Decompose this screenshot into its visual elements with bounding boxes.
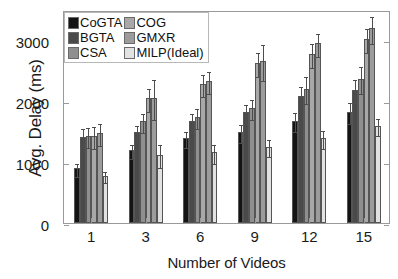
error-bar-line: [252, 100, 253, 121]
error-bar-cap-top: [256, 53, 260, 54]
y-tick-mark: [64, 103, 69, 104]
error-bar-cap-top: [212, 145, 216, 146]
error-bar-cap-bottom: [244, 124, 248, 125]
error-bar-line: [100, 124, 101, 146]
y-tick-mark: [64, 164, 69, 165]
y-tick-label: 2000: [0, 95, 49, 112]
error-bar-cap-bottom: [359, 94, 363, 95]
error-bar-line: [372, 17, 373, 44]
x-tick-mark: [364, 218, 365, 223]
error-bar-cap-top: [304, 77, 308, 78]
error-bar-line: [105, 172, 106, 183]
error-bar-line: [186, 132, 187, 148]
error-bar-line: [318, 34, 319, 57]
error-bar-cap-top: [147, 89, 151, 90]
error-bar-line: [132, 145, 133, 160]
y-tick-mark-right: [384, 225, 389, 226]
error-bar-cap-top: [353, 80, 357, 81]
error-bar-cap-top: [152, 80, 156, 81]
legend-swatch-icon: [68, 47, 79, 59]
error-bar-cap-bottom: [190, 132, 194, 133]
error-bar-cap-bottom: [135, 143, 139, 144]
error-bar-cap-bottom: [130, 159, 134, 160]
error-bar-line: [143, 114, 144, 133]
error-bar-cap-bottom: [267, 157, 271, 158]
error-bar-cap-bottom: [321, 149, 325, 150]
error-bar-cap-top: [103, 172, 107, 173]
error-bar-cap-bottom: [256, 77, 260, 78]
x-tick-mark: [91, 218, 92, 223]
error-bar-line: [312, 44, 313, 68]
error-bar-line: [323, 131, 324, 149]
error-bar-cap-top: [195, 109, 199, 110]
chart-legend: CoGTACOGBGTAGMXRCSAMILP(Ideal): [64, 12, 209, 63]
error-bar-cap-bottom: [92, 149, 96, 150]
error-bar-line: [367, 29, 368, 53]
legend-swatch-icon: [124, 47, 135, 59]
error-bar-cap-bottom: [304, 104, 308, 105]
legend-entry: COG: [124, 15, 203, 30]
error-bar-cap-bottom: [81, 148, 85, 149]
error-bar-cap-top: [75, 164, 79, 165]
error-bar-line: [263, 45, 264, 80]
y-tick-label: 1000: [0, 156, 49, 173]
error-bar-line: [88, 128, 89, 149]
error-bar-cap-top: [81, 129, 85, 130]
error-bar-line: [241, 125, 242, 143]
error-bar-line: [306, 77, 307, 104]
error-bar-line: [203, 75, 204, 97]
x-tick-mark: [200, 218, 201, 223]
error-bar-cap-top: [365, 29, 369, 30]
legend-label: GMXR: [136, 30, 175, 45]
x-tick-mark: [255, 218, 256, 223]
error-bar-cap-top: [92, 127, 96, 128]
error-bar-cap-bottom: [293, 132, 297, 133]
error-bar-cap-top: [299, 87, 303, 88]
error-bar-cap-top: [250, 100, 254, 101]
error-bar-line: [94, 127, 95, 149]
error-bar-line: [192, 114, 193, 132]
error-bar-cap-bottom: [98, 146, 102, 147]
error-bar-cap-top: [239, 125, 243, 126]
error-bar-cap-top: [348, 103, 352, 104]
error-bar-cap-bottom: [250, 120, 254, 121]
legend-entry: MILP(Ideal): [124, 45, 203, 60]
error-bar-cap-top: [244, 105, 248, 106]
error-bar-cap-bottom: [152, 120, 156, 121]
legend-swatch-icon: [68, 17, 79, 29]
error-bar-line: [258, 53, 259, 76]
error-bar-line: [295, 113, 296, 132]
error-bar-line: [301, 87, 302, 110]
y-tick-label: 3000: [0, 34, 49, 51]
error-bar-cap-top: [86, 128, 90, 129]
error-bar-cap-top: [130, 145, 134, 146]
legend-label: MILP(Ideal): [136, 45, 203, 60]
legend-swatch-icon: [124, 32, 135, 44]
error-bar-cap-top: [201, 75, 205, 76]
error-bar-cap-top: [293, 113, 297, 114]
error-bar-cap-top: [370, 17, 374, 18]
error-bar-line: [77, 164, 78, 177]
bar: [375, 126, 381, 223]
error-bar-cap-bottom: [316, 57, 320, 58]
error-bar-line: [361, 67, 362, 94]
error-bar-cap-bottom: [261, 81, 265, 82]
legend-label: CoGTA: [80, 15, 122, 30]
y-tick-mark-right: [384, 42, 389, 43]
error-bar-line: [149, 89, 150, 112]
error-bar-line: [154, 80, 155, 120]
error-bar-cap-bottom: [370, 44, 374, 45]
legend-label: CSA: [80, 45, 107, 60]
error-bar-cap-top: [376, 119, 380, 120]
error-bar-line: [83, 129, 84, 148]
x-tick-label: 3: [126, 228, 166, 245]
error-bar-cap-top: [316, 34, 320, 35]
error-bar-cap-top: [184, 132, 188, 133]
error-bar-cap-top: [135, 126, 139, 127]
legend-entry: BGTA: [68, 30, 122, 45]
error-bar-cap-bottom: [348, 124, 352, 125]
error-bar-cap-bottom: [184, 148, 188, 149]
legend-label: BGTA: [80, 30, 114, 45]
x-tick-label: 9: [235, 228, 275, 245]
x-tick-label: 1: [71, 228, 111, 245]
